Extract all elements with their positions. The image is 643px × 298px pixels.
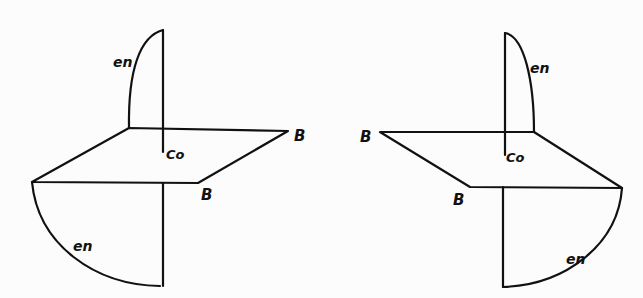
- left-upper-en-label: en: [113, 54, 132, 70]
- left-parallelogram-plane: [32, 128, 288, 183]
- enantiomer-diagram: en Co B B en en Co B B en: [0, 0, 643, 298]
- diagram-canvas: en Co B B en en Co B B en: [0, 0, 643, 298]
- left-lower-lobe-arc: [32, 182, 160, 286]
- right-lower-en-label: en: [566, 251, 585, 267]
- right-back-b-label: B: [360, 128, 371, 146]
- right-lower-lobe-arc: [503, 188, 622, 287]
- right-upper-lobe-arc: [505, 33, 534, 132]
- left-back-b-label: B: [294, 127, 305, 145]
- right-front-b-label: B: [453, 191, 464, 209]
- right-parallelogram-plane: [380, 132, 622, 188]
- left-upper-lobe-arc: [129, 30, 163, 128]
- right-co-label: Co: [506, 150, 525, 165]
- left-front-b-label: B: [201, 186, 212, 204]
- right-upper-en-label: en: [530, 60, 549, 76]
- left-lower-en-label: en: [73, 238, 92, 254]
- left-co-label: Co: [166, 147, 185, 162]
- right-figure: en Co B B en: [360, 33, 622, 287]
- left-figure: en Co B B en: [32, 30, 305, 286]
